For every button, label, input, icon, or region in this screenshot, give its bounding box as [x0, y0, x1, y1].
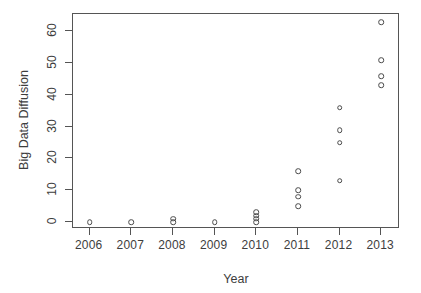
- data-point: [253, 210, 259, 216]
- scatter-plot-figure: 0102030405060 20062007200820092010201120…: [0, 0, 421, 293]
- x-axis-tick-label: 2010: [242, 238, 270, 252]
- data-point: [378, 57, 384, 63]
- x-axis-tick: [89, 228, 90, 235]
- x-axis-tick-label: 2012: [325, 238, 353, 252]
- x-axis-tick-label: 2011: [284, 238, 311, 252]
- data-point: [295, 203, 301, 209]
- x-axis-tick: [255, 228, 256, 235]
- data-point: [337, 127, 343, 133]
- y-axis-tick-label: 30: [45, 119, 59, 132]
- x-axis-tick-label: 2008: [158, 238, 186, 252]
- plot-frame: [72, 13, 399, 228]
- y-axis-tick-label: 60: [45, 24, 59, 37]
- data-point: [378, 19, 384, 25]
- y-axis-tick: [65, 157, 72, 158]
- y-axis-tick: [65, 30, 72, 31]
- x-axis-tick: [214, 228, 215, 235]
- data-point: [295, 168, 301, 174]
- x-axis-title: Year: [223, 272, 248, 286]
- y-axis-tick: [65, 221, 72, 222]
- data-points-layer: [73, 14, 398, 227]
- x-axis-tick: [339, 228, 340, 235]
- y-axis-tick-label: 0: [45, 218, 59, 225]
- data-point: [337, 140, 343, 146]
- data-point: [337, 105, 343, 111]
- data-point: [170, 216, 176, 222]
- y-axis-tick-label: 50: [45, 56, 59, 69]
- y-axis-tick-label: 10: [45, 183, 59, 196]
- y-axis-tick: [65, 189, 72, 190]
- data-point: [378, 73, 384, 79]
- data-point: [378, 83, 384, 89]
- x-axis-tick: [130, 228, 131, 235]
- data-point: [295, 194, 301, 200]
- y-axis-tick: [65, 62, 72, 63]
- data-point: [337, 178, 343, 184]
- y-axis-tick: [65, 126, 72, 127]
- x-axis-tick-label: 2013: [367, 238, 395, 252]
- y-axis-tick-label: 40: [45, 87, 59, 100]
- x-axis-tick-label: 2009: [200, 238, 228, 252]
- y-axis-tick-label: 20: [45, 151, 59, 164]
- x-axis-tick-label: 2006: [75, 238, 103, 252]
- y-axis-title: Big Data Diffusion: [17, 70, 31, 170]
- x-axis-tick: [172, 228, 173, 235]
- y-axis-tick: [65, 94, 72, 95]
- data-point: [87, 219, 93, 225]
- x-axis-tick: [297, 228, 298, 235]
- x-axis-tick: [380, 228, 381, 235]
- data-point: [129, 219, 135, 225]
- data-point: [295, 187, 301, 193]
- x-axis-tick-label: 2007: [117, 238, 145, 252]
- data-point: [212, 219, 218, 225]
